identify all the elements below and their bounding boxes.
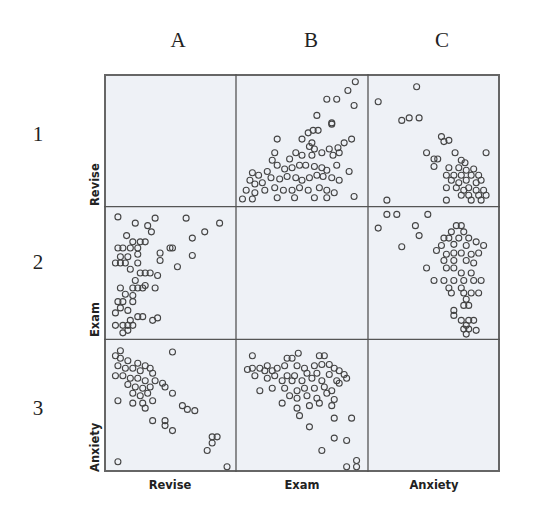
- data-point: [458, 192, 464, 198]
- row-label-2: 2: [26, 250, 50, 275]
- data-point: [257, 388, 263, 394]
- data-point: [150, 370, 156, 376]
- data-point: [471, 277, 477, 283]
- data-point: [309, 375, 315, 381]
- panel-3a: [112, 348, 230, 470]
- data-point: [424, 150, 430, 156]
- panel-3b: [244, 350, 359, 469]
- data-point: [299, 378, 305, 384]
- data-point: [142, 378, 148, 384]
- data-point: [289, 187, 295, 193]
- data-point: [451, 258, 457, 264]
- data-point: [346, 169, 352, 175]
- data-point: [461, 290, 467, 296]
- data-point: [375, 99, 381, 105]
- data-point: [130, 299, 136, 305]
- data-point: [299, 136, 305, 142]
- data-point: [252, 373, 258, 379]
- data-point: [297, 162, 303, 168]
- data-point: [135, 260, 141, 266]
- data-point: [115, 398, 121, 404]
- data-point: [331, 190, 337, 196]
- data-point: [125, 381, 131, 387]
- data-point: [451, 241, 457, 247]
- data-point: [468, 251, 474, 257]
- data-point: [132, 384, 138, 390]
- data-point: [344, 464, 350, 470]
- data-point: [384, 197, 390, 203]
- data-point: [130, 400, 136, 406]
- data-point: [299, 177, 305, 183]
- data-point: [293, 150, 299, 156]
- data-point: [311, 363, 317, 369]
- data-point: [269, 157, 275, 163]
- y-axis-label-exam: Exam: [88, 302, 102, 337]
- row-label-3: 3: [26, 396, 50, 421]
- data-point: [351, 193, 357, 199]
- x-axis-label-revise: Revise: [104, 478, 236, 492]
- data-point: [473, 239, 479, 245]
- data-point: [249, 170, 255, 176]
- data-point: [463, 258, 469, 264]
- data-point: [189, 253, 195, 259]
- data-point: [331, 415, 337, 421]
- data-point: [483, 192, 489, 198]
- data-point: [115, 363, 121, 369]
- data-point: [438, 243, 444, 249]
- data-point: [125, 307, 131, 313]
- data-point: [130, 390, 136, 396]
- data-point: [135, 251, 141, 257]
- data-point: [316, 400, 322, 406]
- data-point: [458, 317, 464, 323]
- data-point: [319, 150, 325, 156]
- data-point: [217, 220, 223, 226]
- data-point: [416, 233, 422, 239]
- data-point: [463, 177, 469, 183]
- data-point: [282, 166, 288, 172]
- data-point: [117, 348, 123, 354]
- data-point: [183, 215, 189, 221]
- data-point: [294, 363, 300, 369]
- data-point: [259, 180, 265, 186]
- data-point: [293, 175, 299, 181]
- data-point: [324, 390, 330, 396]
- data-point: [452, 150, 458, 156]
- data-point: [461, 277, 467, 283]
- data-point: [466, 185, 472, 191]
- y-axis-label-anxiety: Anxiety: [88, 423, 102, 472]
- data-point: [262, 187, 268, 193]
- data-point: [468, 197, 474, 203]
- data-point: [468, 290, 474, 296]
- data-point: [204, 448, 210, 454]
- data-point: [329, 403, 335, 409]
- data-point: [117, 285, 123, 291]
- data-point: [468, 270, 474, 276]
- data-point: [155, 315, 161, 321]
- data-point: [301, 385, 307, 391]
- data-point: [326, 372, 332, 378]
- data-point: [189, 235, 195, 241]
- data-point: [264, 375, 270, 381]
- data-point: [349, 415, 355, 421]
- data-point: [252, 181, 258, 187]
- data-point: [297, 185, 303, 191]
- data-point: [331, 435, 337, 441]
- data-point: [349, 136, 355, 142]
- data-point: [435, 156, 441, 162]
- data-point: [284, 173, 290, 179]
- data-point: [130, 239, 136, 245]
- data-point: [326, 146, 332, 152]
- data-point: [424, 265, 430, 271]
- data-point: [483, 150, 489, 156]
- data-point: [239, 196, 245, 202]
- data-point: [145, 223, 151, 229]
- data-point: [416, 115, 422, 121]
- data-point: [330, 152, 336, 158]
- data-point: [319, 378, 325, 384]
- row-label-1: 1: [26, 122, 50, 147]
- data-point: [476, 250, 482, 256]
- data-point: [282, 385, 288, 391]
- data-point: [132, 220, 138, 226]
- data-point: [132, 277, 138, 283]
- data-point: [192, 408, 198, 414]
